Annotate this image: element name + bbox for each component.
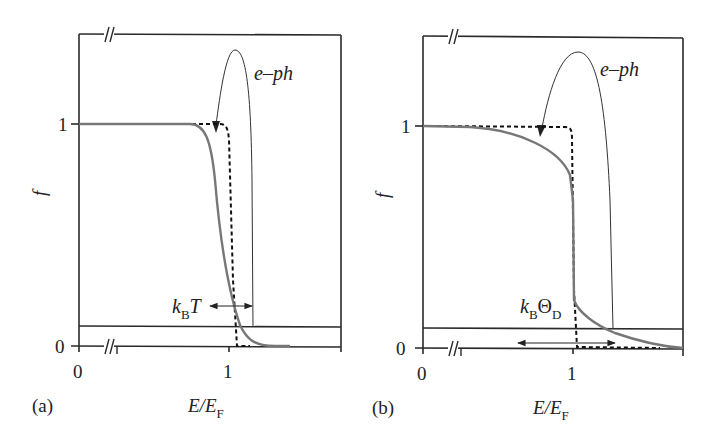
b-subscript: B xyxy=(529,307,538,322)
ytick-0: 0 xyxy=(55,336,65,357)
kbt-label: kBT xyxy=(172,295,203,322)
x-axis-label-main: E/E xyxy=(532,397,562,418)
x-axis-label-sub: F xyxy=(217,406,224,421)
theta-symbol: Θ xyxy=(538,295,552,317)
panel-label: (a) xyxy=(32,395,53,417)
xtick-1: 1 xyxy=(223,361,233,382)
x-axis-label: E/EF xyxy=(187,395,224,421)
ytick-1: 1 xyxy=(401,116,411,137)
ytick-1: 1 xyxy=(58,114,68,135)
eph-label: e–ph xyxy=(600,58,639,81)
d-subscript: D xyxy=(552,307,561,322)
x-axis-label-sub: F xyxy=(562,408,569,423)
panel-label: (b) xyxy=(372,397,394,419)
kbthetad-label: kBΘD xyxy=(520,295,561,322)
ytick-0: 0 xyxy=(396,338,406,359)
b-subscript: B xyxy=(181,307,190,322)
eph-loop-curve xyxy=(216,50,253,327)
xtick-0: 0 xyxy=(73,361,83,382)
panel-a: 1 0 0 1 f (a) E/EF e–ph kBT xyxy=(29,27,341,421)
eph-loop-curve xyxy=(542,52,613,329)
eph-arrowhead-icon xyxy=(212,121,220,133)
x-axis-label: E/EF xyxy=(532,397,569,423)
x-axis-label-main: E/E xyxy=(187,395,217,416)
panel-b: 1 0 0 1 f (b) E/EF e–ph kBΘD xyxy=(372,29,683,423)
axis-break-icon xyxy=(448,29,461,356)
eph-label: e–ph xyxy=(254,62,293,85)
y-axis-label: f xyxy=(29,188,50,196)
xtick-0: 0 xyxy=(417,363,427,384)
xtick-1: 1 xyxy=(567,363,577,384)
t-symbol: T xyxy=(190,295,203,317)
panel-a-frame xyxy=(71,34,341,352)
axis-break-icon xyxy=(104,27,117,354)
y-axis-label: f xyxy=(372,190,393,198)
figure-canvas: 1 0 0 1 f (a) E/EF e–ph kBT xyxy=(0,0,716,438)
